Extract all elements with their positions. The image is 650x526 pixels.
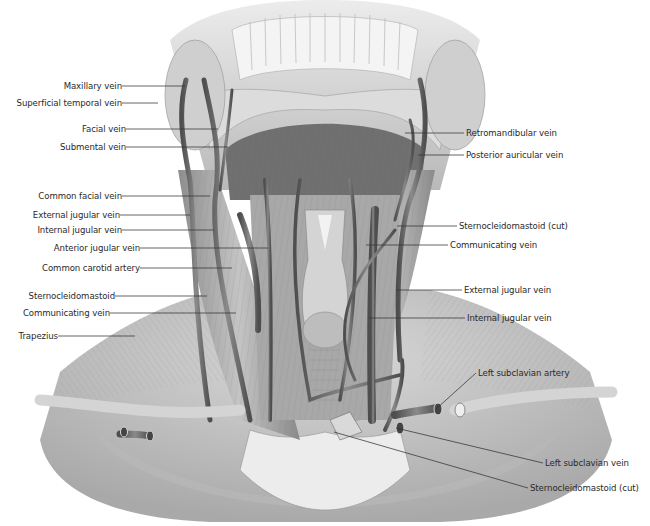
label-external-jugular-vein-left: External jugular vein: [33, 210, 120, 220]
label-sternocleidomastoid-cut-upper: Sternocleidomastoid (cut): [459, 221, 568, 231]
label-facial-vein: Facial vein: [82, 124, 126, 134]
label-superficial-temporal-vein: Superficial temporal vein: [17, 98, 122, 108]
label-posterior-auricular-vein: Posterior auricular vein: [466, 150, 563, 160]
label-sternocleidomastoid-left: Sternocleidomastoid: [29, 291, 115, 301]
label-anterior-jugular-vein: Anterior jugular vein: [54, 243, 140, 253]
label-communicating-vein-left: Communicating vein: [23, 308, 110, 318]
label-common-carotid-artery: Common carotid artery: [42, 263, 140, 273]
label-internal-jugular-vein-right: Internal jugular vein: [467, 313, 552, 323]
anatomy-figure: Maxillary vein Superficial temporal vein…: [0, 0, 650, 526]
label-left-subclavian-artery: Left subclavian artery: [478, 368, 569, 378]
label-external-jugular-vein-right: External jugular vein: [464, 285, 551, 295]
label-maxillary-vein: Maxillary vein: [64, 81, 122, 91]
label-trapezius: Trapezius: [19, 331, 58, 341]
label-communicating-vein-right: Communicating vein: [450, 240, 537, 250]
label-retromandibular-vein: Retromandibular vein: [466, 128, 557, 138]
label-common-facial-vein: Common facial vein: [38, 191, 122, 201]
label-left-subclavian-vein: Left subclavian vein: [545, 458, 629, 468]
label-sternocleidomastoid-cut-lower: Sternocleidomastoid (cut): [530, 483, 639, 493]
label-submental-vein: Submental vein: [60, 142, 126, 152]
label-internal-jugular-vein-left: Internal jugular vein: [37, 225, 122, 235]
